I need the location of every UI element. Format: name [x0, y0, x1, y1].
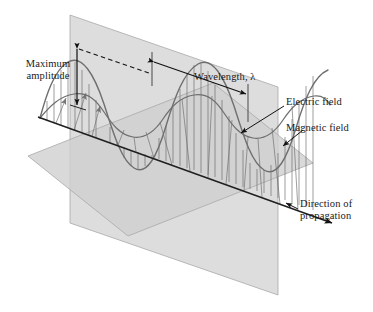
diagram-canvas: [0, 0, 373, 312]
magnetic-field-label: Magnetic field: [286, 122, 349, 134]
maximum-amplitude-line-1: Maximum: [12, 58, 84, 70]
wavelength-label: Wavelength, λ: [194, 71, 256, 83]
direction-of-propagation-line-1: Direction of: [300, 198, 352, 210]
maximum-amplitude-label: Maximum amplitude: [12, 58, 84, 83]
direction-of-propagation-label: Direction of propagation: [300, 198, 352, 223]
direction-of-propagation-line-2: propagation: [300, 210, 352, 222]
maximum-amplitude-line-2: amplitude: [12, 70, 84, 82]
electric-field-label: Electric field: [286, 96, 342, 108]
electromagnetic-wave-diagram: Maximum amplitude Wavelength, λ Electric…: [0, 0, 373, 312]
